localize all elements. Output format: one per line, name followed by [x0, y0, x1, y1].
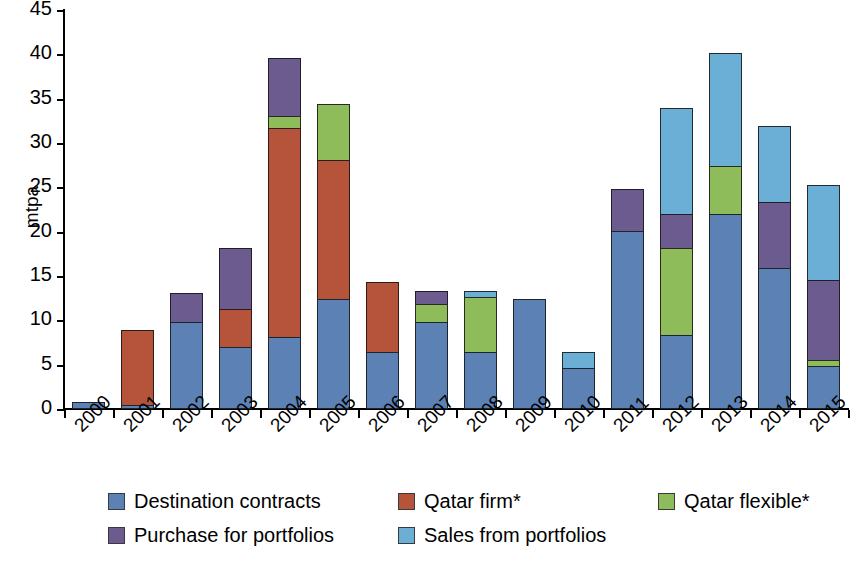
x-axis-tick-mark	[64, 410, 66, 418]
legend-swatch-icon	[398, 527, 415, 544]
stacked-bar-chart: mtpa 454035302520151050 2000200120022003…	[0, 0, 857, 570]
x-axis-tick-mark	[799, 410, 801, 418]
x-axis-tick-mark	[848, 410, 850, 418]
y-axis-tick-label: 15	[12, 263, 52, 286]
y-axis-tick-label: 10	[12, 307, 52, 330]
x-axis-tick-mark	[652, 410, 654, 418]
y-axis-tick-label: 25	[12, 174, 52, 197]
legend-item[interactable]: Sales from portfolios	[398, 524, 606, 547]
legend-label: Purchase for portfolios	[134, 524, 334, 547]
legend-item[interactable]: Qatar firm*	[398, 490, 521, 513]
x-axis-tick-mark	[407, 410, 409, 418]
bar-2004[interactable]	[268, 58, 301, 409]
legend-row: Destination contractsQatar firm*Qatar fl…	[108, 484, 848, 518]
bar-segment[interactable]	[660, 214, 693, 248]
y-axis-tick-label: 5	[12, 352, 52, 375]
legend-item[interactable]: Purchase for portfolios	[108, 524, 334, 547]
bar-segment[interactable]	[758, 126, 791, 202]
y-axis-tick-label: 45	[12, 0, 52, 20]
x-axis-tick-mark	[554, 410, 556, 418]
bar-segment[interactable]	[660, 248, 693, 336]
bar-segment[interactable]	[611, 189, 644, 231]
bar-segment[interactable]	[219, 309, 252, 347]
bar-2011[interactable]	[611, 189, 644, 409]
legend-label: Sales from portfolios	[424, 524, 606, 547]
bar-segment[interactable]	[807, 280, 840, 360]
plot-area	[64, 10, 848, 409]
bar-segment[interactable]	[562, 352, 595, 368]
bar-segment[interactable]	[366, 282, 399, 352]
bar-segment[interactable]	[758, 268, 791, 409]
chart-legend: Destination contractsQatar firm*Qatar fl…	[108, 484, 848, 552]
bar-segment[interactable]	[415, 304, 448, 322]
x-axis-tick-mark	[260, 410, 262, 418]
bar-segment[interactable]	[317, 104, 350, 160]
bar-2005[interactable]	[317, 104, 350, 409]
legend-swatch-icon	[398, 493, 415, 510]
bar-2003[interactable]	[219, 248, 252, 409]
bar-2015[interactable]	[807, 185, 840, 409]
legend-item[interactable]: Destination contracts	[108, 490, 321, 513]
legend-swatch-icon	[658, 493, 675, 510]
bar-2013[interactable]	[709, 53, 742, 409]
x-axis-tick-mark	[113, 410, 115, 418]
x-axis-tick-mark	[162, 410, 164, 418]
bar-segment[interactable]	[709, 214, 742, 409]
bar-2012[interactable]	[660, 108, 693, 409]
bar-segment[interactable]	[758, 202, 791, 268]
bar-segment[interactable]	[709, 53, 742, 166]
bar-2014[interactable]	[758, 126, 791, 409]
bar-segment[interactable]	[170, 293, 203, 322]
bar-segment[interactable]	[268, 58, 301, 116]
x-axis-tick-mark	[603, 410, 605, 418]
bar-segment[interactable]	[317, 160, 350, 299]
y-axis-tick-label: 0	[12, 396, 52, 419]
bar-2006[interactable]	[366, 282, 399, 409]
legend-label: Qatar firm*	[424, 490, 521, 513]
legend-item[interactable]: Qatar flexible*	[658, 490, 810, 513]
legend-label: Qatar flexible*	[684, 490, 810, 513]
legend-swatch-icon	[108, 493, 125, 510]
bar-segment[interactable]	[415, 291, 448, 304]
y-axis-tick-label: 20	[12, 219, 52, 242]
x-axis-tick-mark	[750, 410, 752, 418]
bar-segment[interactable]	[268, 116, 301, 128]
bar-segment[interactable]	[611, 231, 644, 409]
x-axis-tick-mark	[701, 410, 703, 418]
bar-segment[interactable]	[464, 297, 497, 352]
x-axis-tick-mark	[456, 410, 458, 418]
y-axis-tick-label: 35	[12, 86, 52, 109]
y-axis-tick-label: 40	[12, 41, 52, 64]
x-axis-tick-mark	[211, 410, 213, 418]
legend-row: Purchase for portfoliosSales from portfo…	[108, 518, 848, 552]
x-axis-tick-mark	[505, 410, 507, 418]
y-axis-tick-label: 30	[12, 130, 52, 153]
x-axis-tick-mark	[309, 410, 311, 418]
legend-swatch-icon	[108, 527, 125, 544]
bar-segment[interactable]	[660, 108, 693, 214]
bar-segment[interactable]	[268, 128, 301, 337]
bar-segment[interactable]	[807, 185, 840, 281]
x-axis-tick-mark	[358, 410, 360, 418]
bar-segment[interactable]	[709, 166, 742, 214]
bar-segment[interactable]	[219, 248, 252, 309]
legend-label: Destination contracts	[134, 490, 321, 513]
